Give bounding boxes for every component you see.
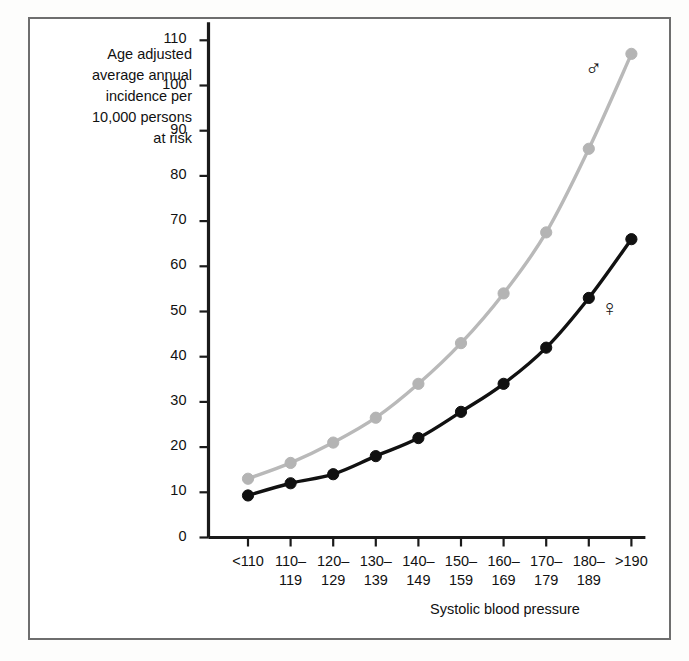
data-point bbox=[498, 288, 509, 299]
data-point bbox=[413, 432, 424, 443]
axes-lines bbox=[200, 22, 646, 546]
data-point bbox=[541, 227, 552, 238]
data-point bbox=[583, 143, 594, 154]
data-point bbox=[455, 406, 466, 417]
data-point bbox=[328, 437, 339, 448]
plot-area bbox=[0, 0, 689, 661]
data-point bbox=[541, 342, 552, 353]
series-men bbox=[242, 48, 637, 484]
data-point bbox=[626, 234, 637, 245]
data-point bbox=[413, 378, 424, 389]
series-women bbox=[242, 234, 637, 501]
data-series-group bbox=[242, 48, 637, 501]
data-point bbox=[285, 478, 296, 489]
data-point bbox=[626, 48, 637, 59]
data-point bbox=[455, 338, 466, 349]
data-point bbox=[242, 490, 253, 501]
data-point bbox=[370, 412, 381, 423]
data-point bbox=[370, 451, 381, 462]
data-point bbox=[583, 292, 594, 303]
data-point bbox=[328, 469, 339, 480]
figure-canvas: Age adjusted average annual incidence pe… bbox=[0, 0, 689, 661]
data-point bbox=[285, 457, 296, 468]
data-point bbox=[498, 378, 509, 389]
data-point bbox=[242, 473, 253, 484]
